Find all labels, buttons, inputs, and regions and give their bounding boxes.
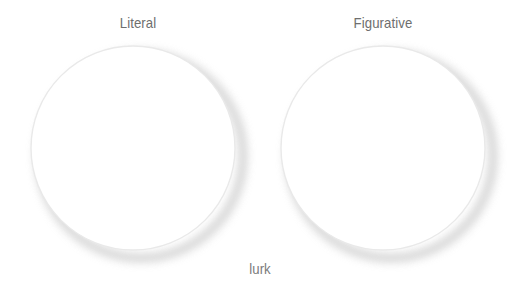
intersection-label-lurk: lurk	[249, 260, 271, 277]
venn-diagram-svg	[0, 0, 520, 300]
venn-diagram-canvas: Literal Figurative lurk	[0, 0, 520, 300]
set-label-literal: Literal	[120, 14, 157, 31]
set-right-fill	[281, 46, 485, 250]
set-label-figurative: Figurative	[354, 14, 413, 31]
set-left-fill	[31, 46, 235, 250]
